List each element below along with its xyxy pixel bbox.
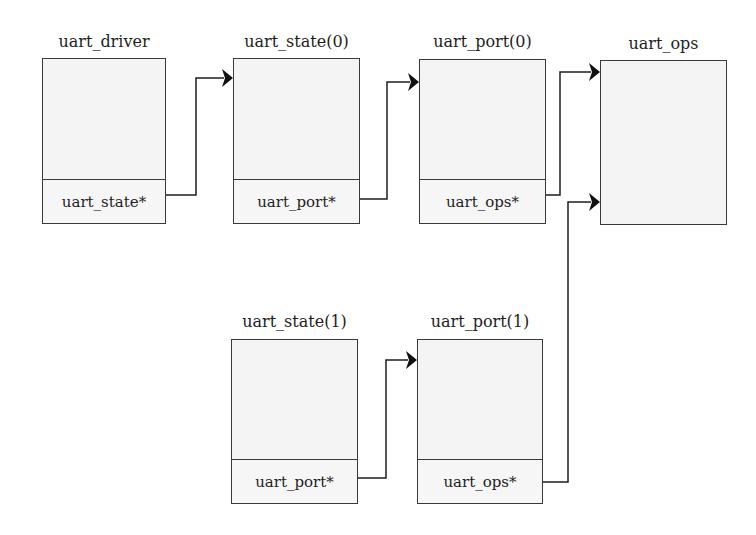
edge-state1-to-port1 <box>358 360 408 478</box>
edge-driver-to-state0 <box>166 78 224 195</box>
uart-structure-diagram: uart_driver uart_state* uart_state(0) ua… <box>0 0 756 535</box>
edge-state0-to-port0 <box>360 82 410 199</box>
connector-layer <box>0 0 756 535</box>
edge-port0-to-ops <box>546 72 591 195</box>
edge-port1-to-ops <box>543 202 591 482</box>
